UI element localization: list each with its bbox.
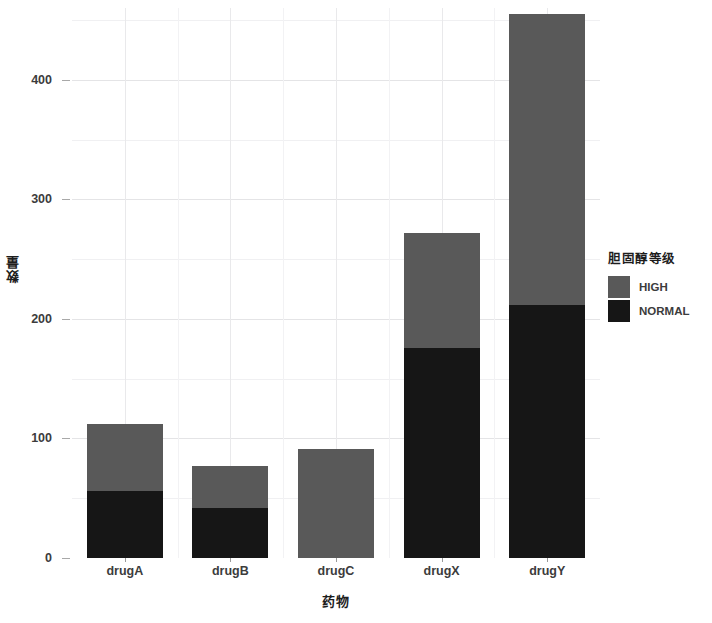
- x-tick-mark: [336, 558, 337, 562]
- gridline-vertical-minor: [178, 8, 179, 558]
- x-tick-mark: [547, 558, 548, 562]
- x-axis-tick-marks: [72, 558, 600, 563]
- x-tick-label-drugC: drugC: [318, 564, 355, 578]
- bar-drugX: [404, 8, 480, 558]
- gridline-vertical-minor: [389, 8, 390, 558]
- gridline-vertical-minor: [283, 8, 284, 558]
- legend-entry-list: HIGHNORMAL: [608, 276, 708, 322]
- bar-segment-drugY-normal: [509, 305, 585, 558]
- legend-entry-high: HIGH: [608, 276, 708, 298]
- bar-segment-drugB-high: [192, 466, 268, 508]
- legend-label-high: HIGH: [639, 281, 668, 293]
- bar-segment-drugY-high: [509, 14, 585, 305]
- gridline-vertical-minor: [494, 8, 495, 558]
- x-tick-mark: [125, 558, 126, 562]
- x-tick-label-drugX: drugX: [424, 564, 460, 578]
- x-tick-label-drugY: drugY: [529, 564, 565, 578]
- y-axis-tick-labels: 0100200300400: [0, 0, 66, 623]
- legend-swatch-normal: [608, 300, 630, 322]
- bar-drugC: [298, 8, 374, 558]
- y-tick-label: 400: [12, 73, 52, 87]
- legend-swatch-high: [608, 276, 630, 298]
- x-tick-mark: [442, 558, 443, 562]
- bar-segment-drugB-normal: [192, 508, 268, 558]
- x-tick-label-drugB: drugB: [212, 564, 249, 578]
- y-tick-label: 100: [12, 431, 52, 445]
- y-tick-mark: [62, 80, 70, 81]
- bar-segment-drugX-normal: [404, 348, 480, 558]
- x-axis-tick-labels: drugAdrugBdrugCdrugXdrugY: [72, 564, 600, 586]
- bar-drugA: [87, 8, 163, 558]
- x-axis-title: 药物: [72, 591, 600, 610]
- y-tick-mark: [62, 319, 70, 320]
- legend-label-normal: NORMAL: [639, 305, 689, 317]
- bar-segment-drugA-normal: [87, 491, 163, 558]
- y-tick-label: 300: [12, 192, 52, 206]
- legend-entry-normal: NORMAL: [608, 300, 708, 322]
- bar-segment-drugA-high: [87, 424, 163, 491]
- y-tick-mark: [62, 438, 70, 439]
- bar-segment-drugC-high: [298, 449, 374, 558]
- legend-title: 胆固醇等级: [608, 248, 708, 267]
- legend: 胆固醇等级 HIGHNORMAL: [608, 248, 708, 324]
- y-tick-label: 0: [12, 551, 52, 565]
- y-tick-label: 200: [12, 312, 52, 326]
- bar-segment-drugX-high: [404, 233, 480, 348]
- plot-area: [72, 8, 600, 558]
- bar-drugY: [509, 8, 585, 558]
- x-tick-mark: [230, 558, 231, 562]
- y-tick-mark: [62, 558, 70, 559]
- y-tick-mark: [62, 199, 70, 200]
- x-tick-label-drugA: drugA: [106, 564, 143, 578]
- bar-drugB: [192, 8, 268, 558]
- stacked-bar-chart: 数量 0100200300400 drugAdrugBdrugCdrugXdru…: [0, 0, 712, 623]
